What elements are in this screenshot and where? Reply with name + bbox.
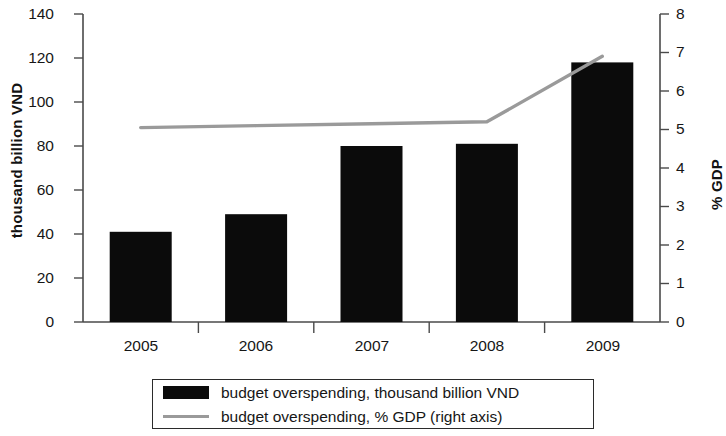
chart-container: thousand billion VND % GDP 140 120 100 8… — [0, 0, 726, 436]
bar-series — [110, 62, 634, 322]
x-label-2009: 2009 — [563, 337, 643, 355]
bar-swatch-icon — [163, 386, 209, 399]
x-label-2005: 2005 — [101, 337, 181, 355]
x-label-2008: 2008 — [447, 337, 527, 355]
x-axis-ticks — [198, 322, 544, 333]
bar-2005 — [110, 232, 172, 322]
bar-2008 — [456, 144, 518, 322]
chart-legend: budget overspending, thousand billion VN… — [152, 379, 594, 429]
bar-2009 — [571, 62, 633, 322]
line-swatch-icon — [163, 415, 209, 418]
legend-label-line: budget overspending, % GDP (right axis) — [221, 408, 502, 426]
plot-area — [0, 0, 726, 436]
x-label-2007: 2007 — [332, 337, 412, 355]
legend-item-bars: budget overspending, thousand billion VN… — [163, 380, 519, 405]
legend-item-line: budget overspending, % GDP (right axis) — [163, 404, 502, 429]
gdp-percent-line — [141, 56, 603, 127]
line-series — [141, 56, 603, 127]
x-label-2006: 2006 — [216, 337, 296, 355]
legend-label-bars: budget overspending, thousand billion VN… — [221, 384, 519, 402]
y-axis-left-ticks — [74, 14, 83, 322]
y-axis-right-ticks — [660, 14, 669, 322]
bar-2007 — [341, 146, 403, 322]
bar-2006 — [225, 214, 287, 322]
